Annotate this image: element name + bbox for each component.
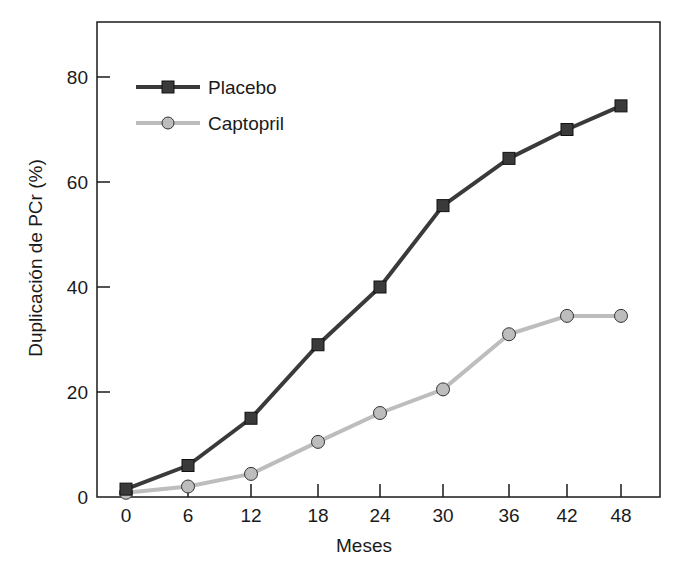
plot-frame — [97, 22, 660, 497]
data-point-square-marker — [182, 460, 194, 472]
data-point-circle-marker — [245, 467, 258, 480]
x-tick-label: 6 — [183, 505, 194, 526]
legend-label-captopril: Captopril — [208, 113, 284, 134]
data-point-circle-marker — [615, 309, 628, 322]
y-axis-title: Duplicación de PCr (%) — [25, 159, 46, 356]
y-tick-label: 60 — [67, 172, 88, 193]
data-point-square-marker — [374, 281, 386, 293]
data-point-circle-marker — [374, 407, 387, 420]
x-tick-label: 30 — [432, 505, 453, 526]
line-chart: 020406080 0612182430364248 Meses Duplica… — [0, 0, 673, 573]
series-line-placebo — [126, 106, 621, 489]
x-tick-label: 36 — [498, 505, 519, 526]
legend-square-marker-icon — [162, 81, 174, 93]
series-line-captopril — [126, 316, 621, 493]
data-point-square-marker — [120, 483, 132, 495]
y-tick-label: 0 — [77, 487, 88, 508]
legend-label-placebo: Placebo — [208, 77, 277, 98]
data-point-square-marker — [503, 152, 515, 164]
data-point-square-marker — [312, 339, 324, 351]
data-point-square-marker — [437, 200, 449, 212]
data-point-circle-marker — [503, 328, 516, 341]
data-point-square-marker — [245, 412, 257, 424]
data-point-circle-marker — [312, 435, 325, 448]
x-axis-title: Meses — [336, 535, 392, 556]
x-tick-label: 24 — [369, 505, 391, 526]
y-tick-label: 80 — [67, 67, 88, 88]
x-tick-label: 42 — [556, 505, 577, 526]
data-point-circle-marker — [561, 309, 574, 322]
data-point-square-marker — [615, 100, 627, 112]
data-point-circle-marker — [437, 383, 450, 396]
x-tick-label: 0 — [121, 505, 132, 526]
legend: Placebo Captopril — [136, 77, 284, 134]
x-tick-label: 48 — [610, 505, 631, 526]
x-axis: 0612182430364248 — [121, 484, 632, 526]
data-point-square-marker — [561, 124, 573, 136]
series-group — [120, 100, 628, 499]
y-tick-label: 20 — [67, 382, 88, 403]
x-tick-label: 18 — [307, 505, 328, 526]
data-point-circle-marker — [182, 480, 195, 493]
y-tick-label: 40 — [67, 277, 88, 298]
x-tick-label: 12 — [240, 505, 261, 526]
y-axis: 020406080 — [67, 67, 110, 508]
legend-circle-marker-icon — [162, 117, 174, 129]
